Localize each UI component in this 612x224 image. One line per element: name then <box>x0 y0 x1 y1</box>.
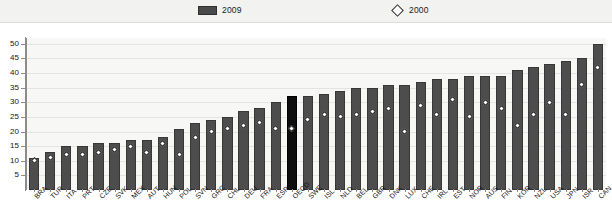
x-axis-tick <box>405 189 406 192</box>
x-axis-tick <box>534 189 535 192</box>
bar <box>287 96 297 190</box>
bar <box>480 76 490 190</box>
bar <box>544 64 554 190</box>
bar <box>577 58 587 190</box>
bar-group <box>77 38 87 190</box>
bar <box>399 85 409 190</box>
chart-container: 2009 2000 5101520253035404550 BRATURITAP… <box>0 0 612 224</box>
legend-label-2000: 2000 <box>409 6 429 15</box>
y-axis-tick-label: 10 <box>0 157 19 165</box>
bar-group <box>29 38 39 190</box>
y-axis-tick <box>21 161 26 162</box>
bar-group <box>206 38 216 190</box>
bar <box>142 140 152 190</box>
y-axis-tick <box>21 44 26 45</box>
bar <box>271 102 281 190</box>
bar <box>512 70 522 190</box>
x-axis-tick <box>550 189 551 192</box>
bar-group <box>174 38 184 190</box>
y-axis-tick-label: 5 <box>0 171 19 179</box>
y-axis-tick-label: 45 <box>0 54 19 62</box>
bar-group <box>448 38 458 190</box>
bar-group <box>238 38 248 190</box>
y-axis-tick-label: 50 <box>0 40 19 48</box>
bar-group <box>61 38 71 190</box>
bar <box>464 76 474 190</box>
bar-group <box>126 38 136 190</box>
y-axis-tick-label: 35 <box>0 84 19 92</box>
bar <box>174 129 184 190</box>
diamond-swatch-icon <box>391 4 404 17</box>
y-axis-labels: 5101520253035404550 <box>0 0 20 224</box>
y-axis-tick-label: 40 <box>0 69 19 77</box>
y-axis-tick <box>21 175 26 176</box>
y-axis-tick-label: 25 <box>0 113 19 121</box>
x-axis-tick <box>244 189 245 192</box>
bar-swatch-icon <box>198 6 217 15</box>
y-axis-tick <box>21 117 26 118</box>
legend-label-2009: 2009 <box>222 6 242 15</box>
bar-group <box>45 38 55 190</box>
bar-group <box>496 38 506 190</box>
y-axis-tick-label: 15 <box>0 142 19 150</box>
legend-item-2009: 2009 <box>198 4 242 17</box>
bar <box>416 82 426 190</box>
bar <box>367 88 377 190</box>
bar-group <box>416 38 426 190</box>
y-axis-tick <box>21 146 26 147</box>
x-axis-tick <box>115 189 116 192</box>
bar-group <box>254 38 264 190</box>
bar-group <box>190 38 200 190</box>
bar-group <box>271 38 281 190</box>
bar <box>496 76 506 190</box>
bar-group <box>93 38 103 190</box>
chart-legend: 2009 2000 <box>0 0 612 23</box>
bar-group <box>109 38 119 190</box>
bar <box>335 91 345 190</box>
bar-group <box>383 38 393 190</box>
bar-group <box>512 38 522 190</box>
x-axis-tick <box>260 189 261 192</box>
y-axis-tick <box>21 132 26 133</box>
bar <box>319 94 329 190</box>
bar-group <box>399 38 409 190</box>
bar-group <box>287 38 297 190</box>
bar-group <box>303 38 313 190</box>
bar <box>528 67 538 190</box>
x-axis-tick <box>389 189 390 192</box>
y-axis-tick <box>21 58 26 59</box>
legend-item-2000: 2000 <box>392 4 429 17</box>
y-axis-tick <box>21 73 26 74</box>
bar-group <box>142 38 152 190</box>
bar-group <box>222 38 232 190</box>
y-axis-tick-label: 30 <box>0 98 19 106</box>
x-axis-labels: BRATURITAPRTCZESVKMEXAUTHUNPOLSVNGRCCHLD… <box>26 191 606 224</box>
y-axis-tick-label: 20 <box>0 128 19 136</box>
x-axis-tick <box>99 189 100 192</box>
bars-layer <box>26 38 606 190</box>
bar-group <box>593 38 603 190</box>
bar-group <box>158 38 168 190</box>
bar-group <box>480 38 490 190</box>
bar <box>561 61 571 190</box>
bar <box>303 96 313 190</box>
bar-group <box>544 38 554 190</box>
bar <box>432 79 442 190</box>
y-axis-tick <box>21 88 26 89</box>
bar-group <box>577 38 587 190</box>
y-axis-tick <box>21 102 26 103</box>
bar <box>383 85 393 190</box>
bar <box>351 88 361 190</box>
